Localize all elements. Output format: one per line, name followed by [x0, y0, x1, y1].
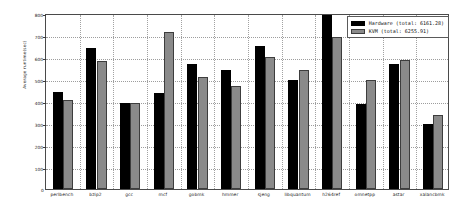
- x-tick-label-gobmk: gobmk: [189, 192, 205, 197]
- bar-kvm-omnetpp: [366, 80, 376, 189]
- y-tick-label-600: 600: [35, 57, 43, 62]
- bar-kvm-hmmer: [231, 86, 241, 189]
- bar-hardware-h264ref: [322, 15, 332, 189]
- legend-label-kvm: KVM (total: 6255.91): [369, 28, 429, 34]
- bar-hardware-xalancbmk: [423, 124, 433, 189]
- x-tick-label-astar: astar: [393, 192, 405, 197]
- x-tick-label-xalancbmk: xalancbmk: [420, 192, 445, 197]
- bar-hardware-gobmk: [187, 64, 197, 189]
- plot-area: 100200300400500600700800: [45, 14, 449, 190]
- bar-kvm-gcc: [130, 103, 140, 189]
- x-tick-label-perlbench: perlbench: [50, 192, 73, 197]
- x-tick-label-h264ref: h264ref: [322, 192, 340, 197]
- bar-hardware-libquantum: [288, 80, 298, 189]
- bar-hardware-astar: [389, 64, 399, 189]
- bar-kvm-h264ref: [332, 37, 342, 189]
- x-tick-label-libquantum: libquantum: [284, 192, 310, 197]
- x-tick-label-omnetpp: omnetpp: [355, 192, 375, 197]
- bar-chart-figure: Average runtime(sec) 0 10020030040050060…: [0, 0, 460, 218]
- bar-hardware-mcf: [154, 93, 164, 189]
- y-axis-title: Average runtime(sec): [22, 5, 27, 125]
- legend-swatch-kvm: [351, 29, 365, 34]
- y-tick-label-800: 800: [35, 13, 43, 18]
- legend-item-hardware: Hardware (total: 6161.28): [351, 19, 444, 27]
- x-tick-label-sjeng: sjeng: [258, 192, 270, 197]
- bar-hardware-gcc: [120, 103, 130, 189]
- y-tick-label-200: 200: [35, 145, 43, 150]
- y-tick-label-100: 100: [35, 167, 43, 172]
- bar-kvm-perlbench: [63, 100, 73, 189]
- legend-swatch-hardware: [351, 21, 365, 26]
- legend-item-kvm: KVM (total: 6255.91): [351, 27, 444, 35]
- bar-kvm-xalancbmk: [433, 115, 443, 189]
- y-tick-label-300: 300: [35, 123, 43, 128]
- bar-hardware-bzip2: [86, 48, 96, 189]
- chart-legend: Hardware (total: 6161.28) KVM (total: 62…: [347, 16, 449, 38]
- bar-kvm-libquantum: [299, 70, 309, 189]
- bar-hardware-omnetpp: [356, 104, 366, 189]
- x-tick-label-mcf: mcf: [159, 192, 168, 197]
- bar-kvm-mcf: [164, 32, 174, 189]
- x-tick-label-gcc: gcc: [125, 192, 133, 197]
- y-axis-origin-label: 0: [41, 188, 44, 193]
- x-tick-label-hmmer: hmmer: [222, 192, 238, 197]
- bar-hardware-sjeng: [255, 46, 265, 189]
- bar-kvm-bzip2: [97, 61, 107, 189]
- legend-label-hardware: Hardware (total: 6161.28): [369, 20, 444, 26]
- bar-series-container: [46, 15, 448, 189]
- bar-hardware-hmmer: [221, 70, 231, 189]
- x-tick-label-bzip2: bzip2: [89, 192, 101, 197]
- bar-hardware-perlbench: [53, 92, 63, 189]
- bar-kvm-sjeng: [265, 57, 275, 189]
- y-tick-label-700: 700: [35, 35, 43, 40]
- y-tick-label-500: 500: [35, 79, 43, 84]
- bar-kvm-astar: [400, 60, 410, 189]
- bar-kvm-gobmk: [198, 77, 208, 189]
- y-tick-label-400: 400: [35, 101, 43, 106]
